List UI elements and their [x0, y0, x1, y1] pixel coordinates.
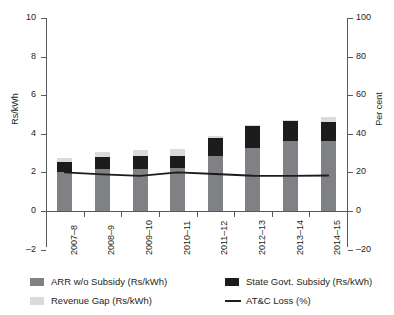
legend-item-label: ARR w/o Subsidy (Rs/kWh): [51, 276, 167, 287]
x-axis-tick-label: 2011–12: [219, 221, 229, 255]
bar-stack: [170, 18, 185, 211]
legend-item-arr[interactable]: ARR w/o Subsidy (Rs/kWh): [30, 276, 167, 287]
y-axis-right-tickmark: [348, 95, 353, 96]
x-axis-tick-label: 2009–10: [144, 220, 154, 255]
bar-segment-subsidy: [283, 121, 298, 140]
y-axis-right-tickmark: [348, 18, 353, 19]
legend-item-label: State Govt. Subsidy (Rs/kWh): [246, 276, 372, 287]
bar-segment-arr: [208, 156, 223, 211]
bar-segment-subsidy: [170, 156, 185, 168]
x-axis-tick-label: 2012–13: [257, 220, 267, 255]
bar-segment-subsidy: [95, 157, 110, 169]
y-axis-left-tickmark: [41, 250, 46, 251]
y-axis-left-tick-label: 8: [14, 51, 36, 61]
y-axis-right-tick-label: 80: [356, 51, 380, 61]
legend-line-marker-icon: [225, 297, 239, 305]
bar-segment-arr: [283, 141, 298, 211]
x-axis-tickmark: [309, 212, 310, 217]
bar-segment-subsidy: [321, 122, 336, 140]
legend-item-state-subsidy[interactable]: State Govt. Subsidy (Rs/kWh): [225, 276, 372, 287]
y-axis-right-tickmark: [348, 134, 353, 135]
bar-segment-revenue-gap: [283, 120, 298, 121]
bar-segment-arr: [170, 168, 185, 211]
x-axis-tick-label: 2014–15: [332, 220, 342, 255]
bar-stack: [57, 18, 72, 211]
chart-figure: Rs/kWh 1086420–2 Per cent 100806040200–2…: [0, 0, 394, 315]
bar-segment-revenue-gap: [95, 152, 110, 157]
y-axis-left-tick-label: –2: [14, 244, 36, 254]
y-axis-left-tick-label: 10: [14, 12, 36, 22]
legend-swatch-icon: [30, 278, 44, 286]
bar-segment-revenue-gap: [245, 125, 260, 126]
bar-segment-subsidy: [208, 138, 223, 156]
legend-item-atc-loss[interactable]: AT&C Loss (%): [225, 295, 311, 306]
bar-segment-revenue-gap: [208, 136, 223, 138]
bar-segment-arr: [57, 172, 72, 211]
x-axis-tick-label: 2008–9: [106, 225, 116, 255]
y-axis-right-tick-label: 20: [356, 166, 380, 176]
bar-segment-revenue-gap: [57, 158, 72, 162]
bar-stack: [245, 18, 260, 211]
x-axis-tickmark: [197, 212, 198, 217]
bar-segment-revenue-gap: [133, 150, 148, 156]
bar-segment-arr: [95, 169, 110, 211]
y-axis-right-tickmark: [348, 172, 353, 173]
y-axis-right-tickmark: [348, 250, 353, 251]
bar-segment-arr: [321, 141, 336, 211]
x-axis-tickmark: [121, 212, 122, 217]
x-axis-tick-label: 2007–8: [69, 225, 79, 255]
y-axis-right-tickmark: [348, 211, 353, 212]
x-axis-tickmark: [234, 212, 235, 217]
legend-item-revenue-gap[interactable]: Revenue Gap (Rs/kWh): [30, 295, 152, 306]
bar-segment-arr: [245, 148, 260, 211]
x-axis-tickmark: [272, 212, 273, 217]
x-axis-tickmark: [46, 212, 47, 217]
bar-segment-revenue-gap: [170, 149, 185, 156]
y-axis-left-tick-label: 2: [14, 166, 36, 176]
bar-segment-revenue-gap: [321, 117, 336, 122]
legend-item-label: AT&C Loss (%): [246, 295, 311, 306]
legend-swatch-icon: [225, 278, 239, 286]
y-axis-left-tick-label: 0: [14, 205, 36, 215]
x-axis-tick-label: 2010–11: [182, 221, 192, 255]
x-axis-tickmark: [159, 212, 160, 217]
x-axis-tickmark: [347, 212, 348, 217]
bar-stack: [283, 18, 298, 211]
bar-segment-subsidy: [245, 126, 260, 148]
legend-swatch-icon: [30, 297, 44, 305]
x-axis-tick-label: 2013–14: [295, 220, 305, 255]
bar-stack: [208, 18, 223, 211]
bar-segment-subsidy: [57, 162, 72, 173]
x-axis-tickmark: [84, 212, 85, 217]
legend-item-label: Revenue Gap (Rs/kWh): [51, 295, 152, 306]
bar-stack: [321, 18, 336, 211]
y-axis-right-tick-label: 100: [356, 12, 380, 22]
y-axis-right-tick-label: –20: [356, 244, 380, 254]
bar-stack: [95, 18, 110, 211]
bar-stack: [133, 18, 148, 211]
y-axis-left-tick-label: 6: [14, 89, 36, 99]
y-axis-right-tick-label: 40: [356, 128, 380, 138]
y-axis-right-tick-label: 0: [356, 205, 380, 215]
y-axis-left-tick-label: 4: [14, 128, 36, 138]
bar-segment-subsidy: [133, 156, 148, 169]
y-axis-right-tickmark: [348, 57, 353, 58]
bar-segment-arr: [133, 169, 148, 211]
y-axis-right-tick-label: 60: [356, 89, 380, 99]
